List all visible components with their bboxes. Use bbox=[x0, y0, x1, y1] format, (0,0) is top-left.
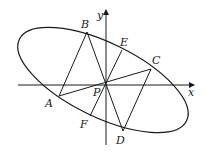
ellipse-diagram: y x B E C A P F D bbox=[0, 0, 206, 156]
label-C: C bbox=[152, 54, 161, 67]
label-y: y bbox=[96, 9, 104, 22]
label-x: x bbox=[188, 86, 195, 99]
label-A: A bbox=[44, 97, 53, 110]
segment-CD bbox=[123, 69, 151, 131]
label-F: F bbox=[79, 118, 88, 131]
label-P: P bbox=[92, 86, 101, 99]
ellipse bbox=[3, 6, 203, 154]
label-D: D bbox=[115, 134, 125, 147]
chord-AC bbox=[59, 69, 151, 96]
label-E: E bbox=[119, 36, 128, 49]
segment-AB bbox=[59, 32, 87, 96]
label-B: B bbox=[80, 18, 89, 31]
